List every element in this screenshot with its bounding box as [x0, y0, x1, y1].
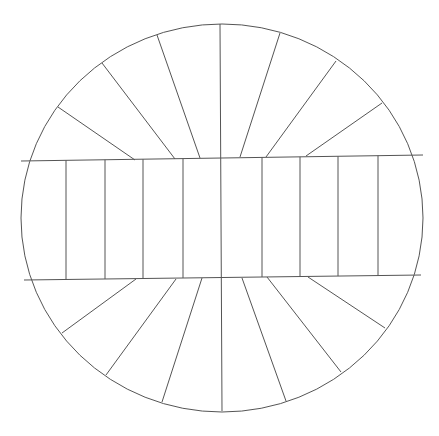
horizontal-band — [21, 155, 423, 280]
bottom-radial-line — [162, 278, 202, 402]
center-line — [220, 24, 222, 411]
band-dividers — [66, 156, 378, 280]
top-radial-line — [240, 33, 280, 157]
bottom-radial-lines — [62, 277, 385, 402]
bottom-radial-line — [62, 279, 136, 333]
center-vertical-line — [220, 24, 222, 411]
bottom-radial-line — [242, 278, 286, 401]
band-top-line — [21, 155, 423, 161]
bottom-radial-line — [308, 277, 385, 328]
top-radial-line — [157, 35, 200, 158]
top-radial-line — [306, 103, 382, 156]
band-bottom-line — [24, 275, 421, 280]
stair-diagram — [0, 0, 439, 436]
top-radial-line — [58, 107, 135, 160]
